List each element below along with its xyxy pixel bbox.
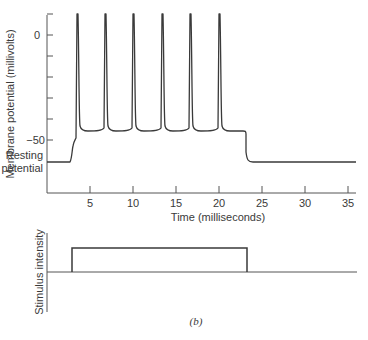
figure: 0 −50 Resting potential Membrane potenti… bbox=[0, 0, 368, 340]
stimulus-pulse bbox=[72, 248, 247, 272]
x-tick-label-35: 35 bbox=[342, 197, 354, 209]
y-tick-label-minus50: −50 bbox=[26, 134, 45, 146]
membrane-potential-trace bbox=[47, 14, 356, 162]
x-tick-label-20: 20 bbox=[213, 197, 225, 209]
stimulus-chart: Stimulus intensity bbox=[33, 229, 357, 315]
y-axis-title: Membrane potential (millivolts) bbox=[4, 29, 16, 178]
y-ticks bbox=[47, 14, 53, 140]
membrane-potential-chart: 0 −50 Resting potential Membrane potenti… bbox=[1, 14, 356, 223]
y-tick-label-0: 0 bbox=[34, 29, 40, 41]
x-ticks bbox=[90, 186, 348, 193]
x-tick-label-5: 5 bbox=[87, 197, 93, 209]
figure-caption: (b) bbox=[190, 315, 203, 328]
x-axis-title: Time (milliseconds) bbox=[171, 211, 265, 223]
x-tick-label-25: 25 bbox=[256, 197, 268, 209]
x-tick-label-30: 30 bbox=[299, 197, 311, 209]
stimulus-y-axis-title: Stimulus intensity bbox=[33, 229, 45, 315]
x-tick-label-10: 10 bbox=[127, 197, 139, 209]
x-tick-label-15: 15 bbox=[170, 197, 182, 209]
